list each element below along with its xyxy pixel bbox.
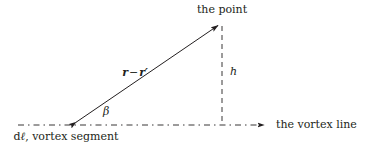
label-height-h: h — [230, 66, 237, 77]
segment-differential-d: d — [13, 130, 20, 143]
label-the-vortex-line: the vortex line — [276, 119, 357, 130]
label-the-point: the point — [197, 4, 247, 15]
label-angle-beta: β — [103, 106, 109, 117]
label-r-minus-r-prime: r−r′ — [122, 67, 148, 78]
vector-r-prime-symbol: r′ — [139, 66, 148, 79]
label-vortex-segment: dℓ, vortex segment — [13, 131, 118, 142]
vortex-geometry-figure: the point the vortex line dℓ, vortex seg… — [0, 0, 365, 149]
minus-operator: − — [128, 66, 139, 79]
vector-r-symbol: r — [122, 66, 128, 79]
segment-label-rest: , vortex segment — [25, 130, 118, 143]
